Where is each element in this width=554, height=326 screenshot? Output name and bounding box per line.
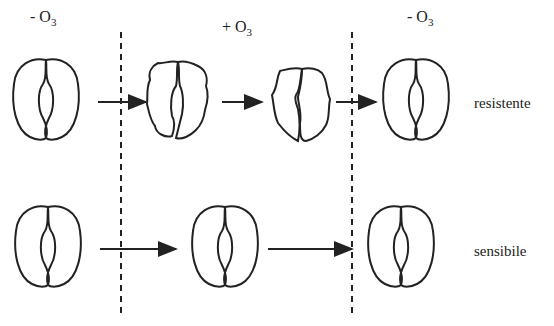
stoma-closing-icon — [147, 61, 208, 138]
stoma-reopened-icon — [383, 59, 449, 139]
stoma-closed-icon — [272, 68, 330, 141]
stoma-open-icon — [192, 206, 258, 286]
stoma-open-icon — [368, 206, 434, 286]
stoma-open-icon — [15, 206, 81, 286]
stoma-open-icon — [13, 59, 79, 139]
stomata-diagram — [0, 0, 554, 326]
